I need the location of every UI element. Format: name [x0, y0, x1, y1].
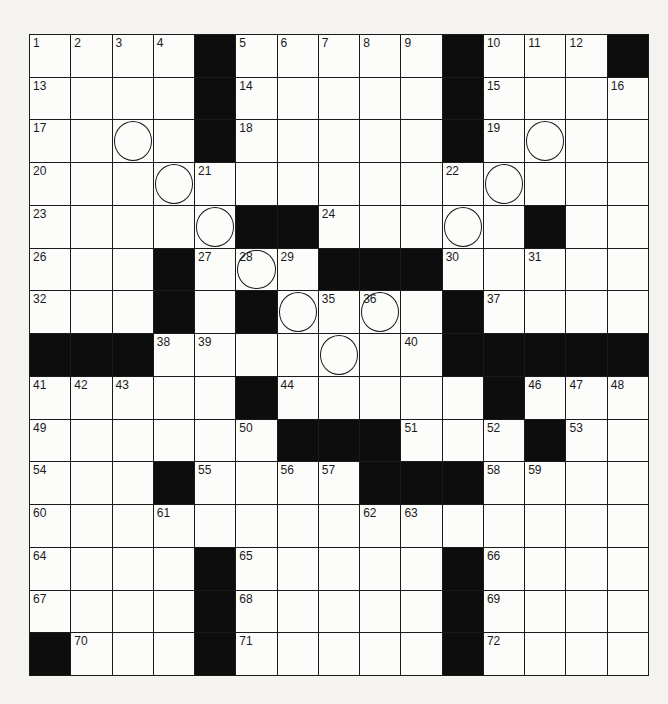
grid-cell[interactable]: 29	[278, 249, 318, 291]
grid-cell[interactable]	[319, 633, 359, 675]
grid-cell[interactable]: 21	[195, 163, 235, 205]
grid-cell[interactable]	[236, 505, 276, 547]
grid-cell[interactable]: 1	[30, 35, 70, 77]
grid-cell[interactable]	[154, 591, 194, 633]
grid-cell[interactable]: 13	[30, 78, 70, 120]
grid-cell[interactable]: 38	[154, 334, 194, 376]
grid-cell[interactable]	[608, 163, 648, 205]
grid-cell[interactable]: 4	[154, 35, 194, 77]
grid-cell[interactable]: 50	[236, 420, 276, 462]
grid-cell[interactable]	[71, 291, 111, 333]
grid-cell[interactable]	[113, 120, 153, 162]
grid-cell[interactable]	[443, 377, 483, 419]
grid-cell[interactable]: 12	[566, 35, 606, 77]
grid-cell[interactable]: 16	[608, 78, 648, 120]
grid-cell[interactable]	[71, 120, 111, 162]
grid-cell[interactable]: 54	[30, 462, 70, 504]
grid-cell[interactable]	[319, 377, 359, 419]
grid-cell[interactable]: 6	[278, 35, 318, 77]
grid-cell[interactable]: 60	[30, 505, 70, 547]
grid-cell[interactable]: 19	[484, 120, 524, 162]
grid-cell[interactable]: 22	[443, 163, 483, 205]
grid-cell[interactable]	[360, 78, 400, 120]
grid-cell[interactable]	[360, 334, 400, 376]
grid-cell[interactable]: 58	[484, 462, 524, 504]
grid-cell[interactable]	[278, 120, 318, 162]
grid-cell[interactable]	[236, 163, 276, 205]
grid-cell[interactable]: 39	[195, 334, 235, 376]
grid-cell[interactable]: 68	[236, 591, 276, 633]
grid-cell[interactable]	[154, 206, 194, 248]
grid-cell[interactable]	[566, 591, 606, 633]
grid-cell[interactable]	[360, 163, 400, 205]
grid-cell[interactable]	[154, 377, 194, 419]
grid-cell[interactable]: 46	[525, 377, 565, 419]
grid-cell[interactable]	[401, 78, 441, 120]
grid-cell[interactable]	[71, 206, 111, 248]
grid-cell[interactable]	[278, 78, 318, 120]
grid-cell[interactable]	[525, 548, 565, 590]
grid-cell[interactable]	[195, 206, 235, 248]
grid-cell[interactable]	[608, 249, 648, 291]
grid-cell[interactable]	[608, 505, 648, 547]
grid-cell[interactable]: 41	[30, 377, 70, 419]
grid-cell[interactable]: 42	[71, 377, 111, 419]
grid-cell[interactable]	[566, 163, 606, 205]
grid-cell[interactable]: 30	[443, 249, 483, 291]
grid-cell[interactable]	[525, 291, 565, 333]
grid-cell[interactable]	[195, 420, 235, 462]
grid-cell[interactable]: 18	[236, 120, 276, 162]
grid-cell[interactable]: 59	[525, 462, 565, 504]
grid-cell[interactable]: 65	[236, 548, 276, 590]
grid-cell[interactable]	[566, 462, 606, 504]
grid-cell[interactable]	[443, 505, 483, 547]
grid-cell[interactable]	[71, 420, 111, 462]
grid-cell[interactable]	[484, 505, 524, 547]
grid-cell[interactable]	[278, 334, 318, 376]
grid-cell[interactable]	[608, 291, 648, 333]
grid-cell[interactable]	[113, 163, 153, 205]
grid-cell[interactable]	[113, 420, 153, 462]
grid-cell[interactable]	[566, 291, 606, 333]
grid-cell[interactable]	[566, 249, 606, 291]
grid-cell[interactable]: 49	[30, 420, 70, 462]
grid-cell[interactable]	[484, 206, 524, 248]
grid-cell[interactable]	[525, 163, 565, 205]
grid-cell[interactable]	[608, 120, 648, 162]
grid-cell[interactable]: 55	[195, 462, 235, 504]
grid-cell[interactable]: 23	[30, 206, 70, 248]
grid-cell[interactable]: 71	[236, 633, 276, 675]
grid-cell[interactable]: 2	[71, 35, 111, 77]
grid-cell[interactable]: 37	[484, 291, 524, 333]
grid-cell[interactable]	[113, 462, 153, 504]
grid-cell[interactable]	[236, 334, 276, 376]
grid-cell[interactable]: 7	[319, 35, 359, 77]
grid-cell[interactable]	[566, 548, 606, 590]
grid-cell[interactable]	[154, 633, 194, 675]
grid-cell[interactable]	[71, 548, 111, 590]
grid-cell[interactable]	[360, 633, 400, 675]
grid-cell[interactable]: 28	[236, 249, 276, 291]
grid-cell[interactable]	[154, 78, 194, 120]
grid-cell[interactable]	[113, 591, 153, 633]
grid-cell[interactable]: 67	[30, 591, 70, 633]
grid-cell[interactable]	[71, 505, 111, 547]
grid-cell[interactable]	[360, 377, 400, 419]
grid-cell[interactable]	[195, 377, 235, 419]
grid-cell[interactable]	[401, 633, 441, 675]
grid-cell[interactable]: 35	[319, 291, 359, 333]
grid-cell[interactable]	[278, 633, 318, 675]
grid-cell[interactable]	[319, 120, 359, 162]
grid-cell[interactable]	[525, 591, 565, 633]
grid-cell[interactable]: 11	[525, 35, 565, 77]
grid-cell[interactable]	[401, 291, 441, 333]
grid-cell[interactable]	[71, 249, 111, 291]
grid-cell[interactable]: 14	[236, 78, 276, 120]
grid-cell[interactable]	[195, 505, 235, 547]
grid-cell[interactable]	[566, 78, 606, 120]
grid-cell[interactable]	[278, 505, 318, 547]
grid-cell[interactable]	[484, 249, 524, 291]
grid-cell[interactable]: 10	[484, 35, 524, 77]
grid-cell[interactable]: 69	[484, 591, 524, 633]
grid-cell[interactable]	[608, 633, 648, 675]
